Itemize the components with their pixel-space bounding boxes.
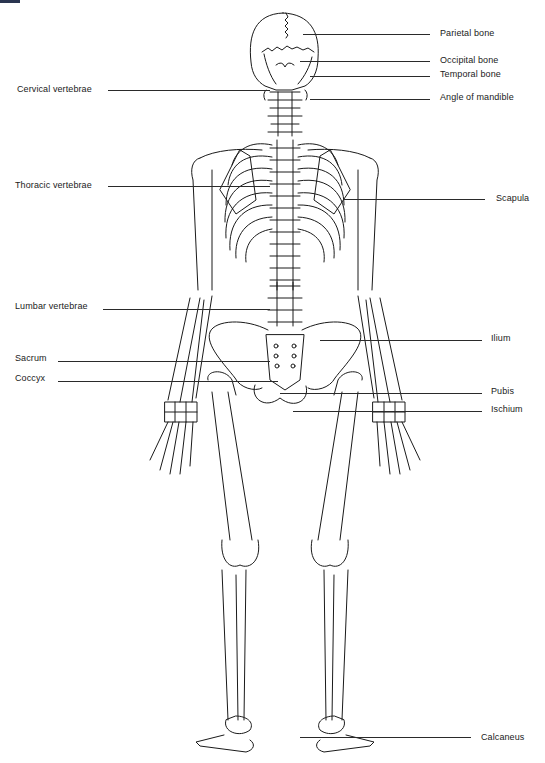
skull — [250, 13, 318, 100]
leader-line-scapula — [343, 199, 485, 200]
leader-line-lumbar-vertebrae — [103, 309, 270, 310]
cervical-vertebrae — [268, 92, 302, 136]
label-calcaneus: Calcaneus — [481, 732, 524, 742]
leader-line-coccyx — [58, 381, 278, 382]
scapula — [200, 149, 370, 214]
label-scapula: Scapula — [496, 193, 529, 203]
label-coccyx: Coccyx — [15, 373, 45, 383]
leader-line-cervical-vertebrae — [108, 90, 270, 91]
leader-line-calcaneus — [300, 737, 471, 738]
label-ischium: Ischium — [491, 404, 523, 414]
leader-line-parietal-bone — [303, 34, 430, 35]
lumbar-vertebrae — [268, 282, 302, 326]
label-temporal-bone: Temporal bone — [440, 69, 501, 79]
leader-line-temporal-bone — [310, 76, 430, 77]
label-lumbar-vertebrae: Lumbar vertebrae — [15, 301, 88, 311]
label-ilium: Ilium — [491, 333, 511, 343]
thoracic-vertebrae — [270, 140, 300, 290]
label-cervical-vertebrae: Cervical vertebrae — [17, 84, 92, 94]
lower-legs — [222, 570, 348, 720]
feet — [196, 716, 374, 752]
label-thoracic-vertebrae: Thoracic vertebrae — [15, 180, 92, 190]
pelvis — [209, 322, 361, 403]
leader-line-ilium — [320, 340, 482, 341]
label-angle-of-mandible: Angle of mandible — [440, 92, 514, 102]
hands — [150, 402, 420, 474]
label-occipital-bone: Occipital bone — [440, 55, 498, 65]
leader-line-ischium — [293, 411, 482, 412]
leader-line-occipital-bone — [300, 61, 430, 62]
label-parietal-bone: Parietal bone — [440, 28, 494, 38]
leader-line-pubis — [280, 393, 482, 394]
label-sacrum: Sacrum — [15, 353, 47, 363]
label-pubis: Pubis — [491, 386, 514, 396]
leader-line-thoracic-vertebrae — [108, 186, 270, 187]
leader-line-sacrum — [58, 361, 270, 362]
leader-line-angle-of-mandible — [310, 99, 430, 100]
